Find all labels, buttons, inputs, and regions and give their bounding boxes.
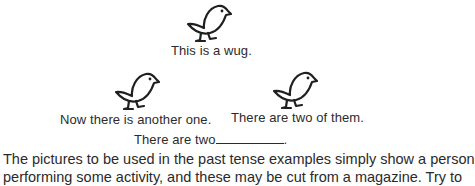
prompt-text: There are two — [134, 132, 216, 147]
prompt-period: . — [284, 132, 288, 147]
wug-bird-icon-right — [268, 69, 318, 111]
caption-another-one: Now there is another one. — [60, 112, 211, 127]
caption-this-is-a-wug: This is a wug. — [171, 43, 252, 58]
wug-bird-icon-left — [110, 70, 160, 112]
body-paragraph: The pictures to be used in the past tens… — [3, 150, 423, 186]
body-line-2: performing some activity, and these may … — [3, 168, 423, 186]
fill-in-prompt: There are two. — [134, 132, 287, 147]
body-line-1: The pictures to be used in the past tens… — [3, 150, 423, 168]
wug-bird-icon-top — [182, 2, 232, 44]
answer-blank — [216, 132, 284, 144]
caption-two-of-them: There are two of them. — [231, 110, 364, 125]
